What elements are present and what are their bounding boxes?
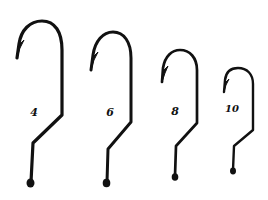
hook-eye: [230, 168, 236, 175]
hook-size-label: 8: [171, 106, 179, 117]
hook-size-label: 10: [225, 104, 239, 114]
hook-size-diagram: [0, 0, 268, 200]
hook-eye: [103, 179, 111, 188]
hook-size-label: 4: [30, 107, 38, 118]
hook-wire: [17, 21, 62, 182]
hook-size-label: 6: [106, 107, 114, 118]
fish-hook-icon: [162, 50, 197, 181]
hook-eye: [27, 178, 35, 187]
fish-hook-icon: [17, 21, 62, 188]
fish-hook-icon: [224, 68, 253, 174]
hook-eye: [172, 173, 179, 181]
hook-wire: [224, 68, 253, 170]
